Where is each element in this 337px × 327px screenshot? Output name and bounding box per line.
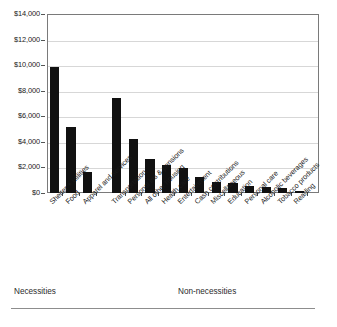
y-tick-label: $0 (32, 189, 40, 197)
y-tick-mark (41, 40, 45, 41)
y-axis: $0$2,000$4,000$6,000$8,000$10,000$12,000… (0, 0, 45, 210)
footer-divider (11, 308, 315, 309)
y-tick-label: $14,000 (14, 10, 40, 18)
y-tick-mark (41, 65, 45, 66)
y-tick-mark (41, 91, 45, 92)
y-tick-mark (41, 193, 45, 194)
y-tick-label: $2,000 (18, 163, 40, 171)
bar (50, 67, 59, 193)
y-tick-label: $12,000 (14, 36, 40, 44)
y-tick-label: $4,000 (18, 138, 40, 146)
y-tick-mark (41, 167, 45, 168)
bar-chart-figure: $0$2,000$4,000$6,000$8,000$10,000$12,000… (0, 0, 337, 327)
group-label-necessities: Necessities (14, 287, 56, 297)
y-tick-label: $6,000 (18, 112, 40, 120)
y-tick-label: $8,000 (18, 87, 40, 95)
y-tick-mark (41, 142, 45, 143)
y-tick-mark (41, 14, 45, 15)
y-tick-mark (41, 116, 45, 117)
group-labels: Necessities Non-necessities (0, 287, 337, 305)
y-tick-label: $10,000 (14, 61, 40, 69)
group-label-non-necessities: Non-necessities (178, 287, 236, 297)
